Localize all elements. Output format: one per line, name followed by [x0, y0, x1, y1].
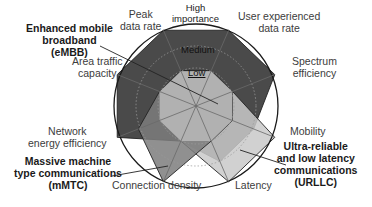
axis-label-mobility: Mobility — [290, 125, 326, 137]
axis-label-peak: Peakdata rate — [120, 8, 161, 32]
axis-label-latency: Latency — [235, 179, 272, 191]
axis-label-energy: Networkenergy efficiency — [28, 125, 107, 149]
axis-label-spectrum: Spectrumefficiency — [292, 55, 337, 79]
axis-label-user: User experienceddata rate — [238, 10, 320, 34]
axis-label-connection: Connection density — [112, 179, 201, 191]
axis-label-area: Area trafficcapacity — [72, 55, 123, 79]
scenario-label-mmtc: Massive machinetype communications(mMTC) — [14, 155, 122, 191]
scenario-label-urllc: Ultra-reliableand low latencycommunicati… — [274, 140, 357, 188]
scenario-label-embb: Enhanced mobilebroadband(eMBB) — [26, 22, 113, 58]
radar-diagram: Highimportance Medium Low Peakdata rateU… — [0, 0, 372, 207]
ring-label-high: Highimportance — [172, 2, 219, 24]
ring-label-medium: Medium — [181, 44, 215, 55]
ring-label-low: Low — [188, 67, 205, 78]
